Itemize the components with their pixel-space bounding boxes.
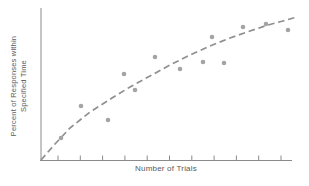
- trend-curve: [41, 17, 297, 160]
- data-point: [201, 60, 206, 65]
- x-axis-label: Number of Trials: [40, 164, 292, 174]
- data-point: [122, 72, 127, 77]
- data-point: [286, 28, 291, 33]
- data-point: [153, 55, 158, 60]
- scatter-plot-canvas: [0, 0, 309, 186]
- data-point: [264, 22, 269, 27]
- y-axis-label-line2: Specified Time: [19, 21, 29, 151]
- data-point: [133, 88, 138, 93]
- y-axis-label-line1: Percent of Responses within: [9, 21, 19, 151]
- data-point: [79, 104, 84, 109]
- data-point: [241, 25, 246, 30]
- data-point: [59, 136, 64, 141]
- data-point: [210, 35, 215, 40]
- data-point: [178, 67, 183, 72]
- data-point: [106, 118, 111, 123]
- data-point: [222, 61, 227, 66]
- learning-curve-figure: Number of Trials Percent of Responses wi…: [0, 0, 309, 186]
- y-axis-label: Percent of Responses within Specified Ti…: [9, 21, 31, 151]
